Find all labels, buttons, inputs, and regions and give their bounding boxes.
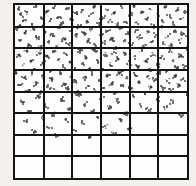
grid-line-horizontal [15, 69, 187, 71]
quadrat-grid-layer [15, 5, 187, 178]
scatter-point [188, 26, 189, 28]
plot-area [13, 3, 189, 180]
scatter-point [188, 94, 189, 96]
scatter-point [188, 98, 189, 100]
scatter-point [188, 24, 189, 26]
grid-line-horizontal [15, 91, 187, 93]
grid-line-horizontal [15, 155, 187, 157]
scatter-point [188, 91, 189, 93]
grid-line-horizontal [15, 134, 187, 136]
scatter-point [188, 52, 189, 53]
grid-line-horizontal [15, 26, 187, 28]
grid-line-horizontal [15, 112, 187, 114]
scatter-point [187, 96, 189, 98]
scatter-point [188, 52, 189, 54]
scatter-point [188, 48, 189, 49]
scatter-point [187, 27, 189, 29]
scatter-point [188, 92, 189, 93]
scatter-point [187, 51, 189, 53]
grid-line-horizontal [15, 47, 187, 49]
figure-container [0, 0, 196, 186]
scatter-point [188, 49, 189, 50]
